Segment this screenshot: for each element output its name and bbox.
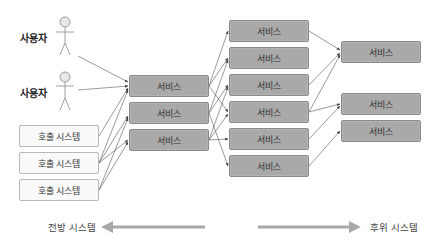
front-service-box: 서비스 (129, 129, 209, 151)
front-systems-label: 전방 시스템 (48, 220, 96, 234)
back-service-box: 서비스 (341, 120, 421, 142)
user-label: 사용자 (20, 85, 47, 100)
service-label: 서비스 (257, 25, 281, 38)
service-label: 서비스 (157, 134, 181, 147)
mid-service-box: 서비스 (229, 155, 309, 177)
service-label: 서비스 (369, 125, 393, 138)
service-label: 서비스 (157, 107, 181, 120)
architecture-diagram: 사용자 사용자 호출 시스템 호출 시스템 호출 시스템 서비스 서비스 서비스… (0, 0, 435, 244)
mid-service-box: 서비스 (229, 128, 309, 150)
mid-service-box: 서비스 (229, 74, 309, 96)
caller-label: 호출 시스템 (38, 157, 81, 170)
mid-service-box: 서비스 (229, 101, 309, 123)
service-label: 서비스 (257, 106, 281, 119)
service-label: 서비스 (257, 79, 281, 92)
back-service-box: 서비스 (341, 93, 421, 115)
front-service-box: 서비스 (129, 102, 209, 124)
service-label: 서비스 (369, 98, 393, 111)
service-label: 서비스 (257, 52, 281, 65)
back-systems-label: 후위 시스템 (370, 220, 418, 234)
caller-label: 호출 시스템 (38, 130, 81, 143)
user-label: 사용자 (20, 30, 47, 45)
caller-system-box: 호출 시스템 (19, 179, 99, 201)
service-label: 서비스 (257, 160, 281, 173)
service-label: 서비스 (257, 133, 281, 146)
mid-service-box: 서비스 (229, 20, 309, 42)
user-figure-1 (56, 17, 74, 55)
service-label: 서비스 (369, 46, 393, 59)
caller-system-box: 호출 시스템 (19, 125, 99, 147)
front-service-box: 서비스 (129, 75, 209, 97)
service-label: 서비스 (157, 80, 181, 93)
back-service-box: 서비스 (341, 41, 421, 63)
mid-service-box: 서비스 (229, 47, 309, 69)
user-figure-2 (56, 72, 74, 110)
caller-label: 호출 시스템 (38, 184, 81, 197)
caller-system-box: 호출 시스템 (19, 152, 99, 174)
